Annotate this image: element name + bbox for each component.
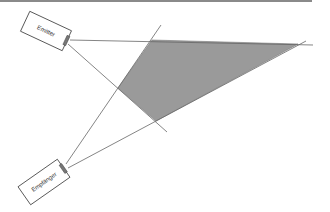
emitter-box[interactable]: Emitter bbox=[21, 11, 73, 51]
diagram-canvas: Emitter Empfänger bbox=[0, 0, 330, 212]
receiver-box[interactable]: Empfänger bbox=[18, 159, 71, 205]
overlap-region bbox=[118, 40, 298, 121]
